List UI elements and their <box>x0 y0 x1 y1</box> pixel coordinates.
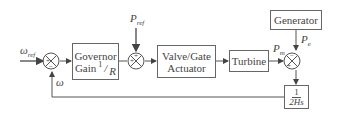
sum3-minus-sign: − <box>290 52 294 60</box>
pm-label: Pm <box>273 42 285 57</box>
p-ref-label: Pref <box>130 12 144 27</box>
generator-block: Generator <box>270 10 322 30</box>
gain-denominator: R <box>109 65 116 77</box>
governor-gain-block: Governor Gain 1/R <box>72 43 119 80</box>
sum1-minus-sign: − <box>49 63 53 71</box>
inertia-numerator: 1 <box>292 88 301 98</box>
omega-ref-label: ωref <box>20 44 35 59</box>
turbine-label: Turbine <box>232 55 266 67</box>
inertia-block: 1 2Hs <box>284 85 309 109</box>
omega-feedback-label: ω <box>56 76 64 88</box>
turbine-block: Turbine <box>229 50 269 72</box>
inertia-denominator: 2Hs <box>289 98 304 107</box>
sum2-plus-left: + <box>130 57 134 65</box>
sum3-plus-sign: + <box>287 62 291 70</box>
valve-label-line1: Valve/Gate <box>162 50 211 62</box>
sum2-plus-top: + <box>134 52 138 60</box>
governor-label: Governor <box>74 50 116 62</box>
valve-gate-actuator-block: Valve/Gate Actuator <box>157 45 216 78</box>
valve-label-line2: Actuator <box>162 62 211 74</box>
generator-label: Generator <box>274 14 318 26</box>
pe-label: Pe <box>301 33 311 48</box>
gain-label: Gain <box>75 62 96 74</box>
gain-numerator: 1 <box>98 59 102 71</box>
